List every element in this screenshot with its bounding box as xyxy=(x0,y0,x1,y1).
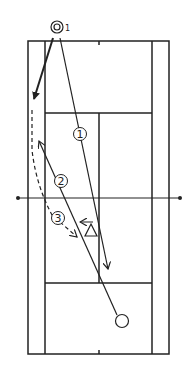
step-2-arrow xyxy=(39,141,117,315)
net-post-right xyxy=(178,196,182,200)
step-1-label: 1 xyxy=(74,128,87,142)
coach-icon xyxy=(85,224,97,236)
svg-text:3: 3 xyxy=(55,212,62,225)
player-move-arrow xyxy=(34,38,53,99)
tennis-court-diagram: 1 1 2 3 xyxy=(0,0,193,378)
svg-text:2: 2 xyxy=(58,175,65,188)
step-2-label: 2 xyxy=(55,175,68,189)
step-3-label: 3 xyxy=(52,212,65,226)
net-post-left xyxy=(16,196,20,200)
player-icon: 1 xyxy=(51,21,70,33)
player-subscript: 1 xyxy=(65,24,70,33)
svg-text:1: 1 xyxy=(77,128,84,141)
step-1-arrow xyxy=(60,38,108,269)
opponent-icon xyxy=(116,315,129,328)
